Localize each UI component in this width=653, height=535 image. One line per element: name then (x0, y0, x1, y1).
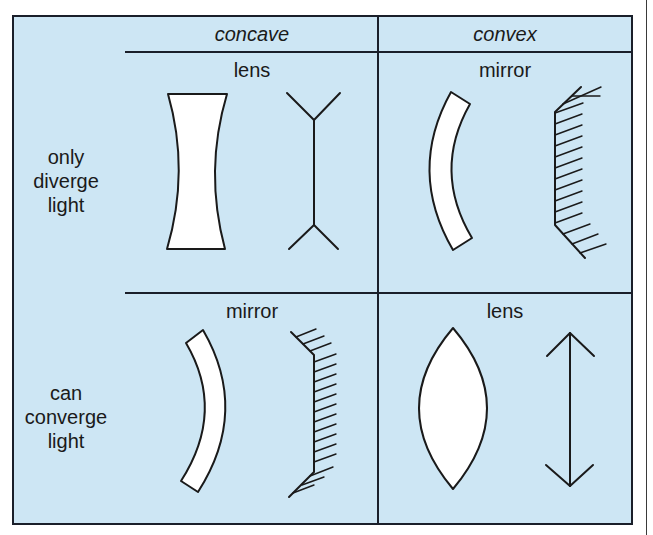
row-label-line: light (48, 194, 85, 216)
row-label-line: can (50, 382, 82, 404)
column-header-concave: concave (215, 23, 290, 45)
cell-label-convex-mirror: mirror (479, 59, 532, 81)
column-header-convex: convex (473, 23, 537, 45)
row-label-line: light (48, 430, 85, 452)
row-label-line: diverge (33, 170, 99, 192)
row-label-line: only (48, 146, 85, 168)
cell-label-concave-lens: lens (234, 59, 271, 81)
panel-border (13, 16, 632, 524)
row-label-line: converge (25, 406, 107, 428)
cell-label-concave-mirror: mirror (226, 300, 279, 322)
optics-table-diagram: concave convex only diverge light can co… (0, 0, 653, 535)
cell-label-convex-lens: lens (487, 300, 524, 322)
